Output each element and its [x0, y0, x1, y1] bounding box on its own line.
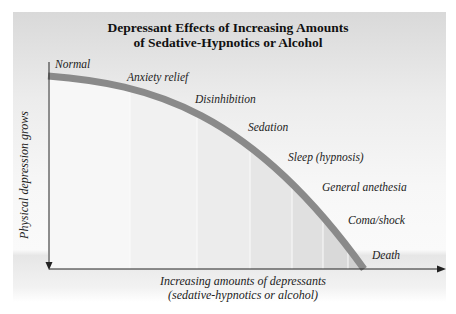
stage-label-anxiety-relief: Anxiety relief	[127, 71, 188, 83]
stage-label-sedation: Sedation	[248, 121, 288, 133]
stage-label-death: Death	[372, 249, 400, 261]
stage-label-sleep: Sleep (hypnosis)	[288, 151, 364, 163]
chart-graphic	[0, 0, 456, 314]
x-axis-label-line-1: Increasing amounts of depressants	[30, 274, 456, 288]
x-axis-label-line-2: (sedative-hypnotics or alcohol)	[30, 288, 456, 302]
stage-label-coma-shock: Coma/shock	[348, 214, 405, 226]
stage-label-normal: Normal	[55, 58, 90, 70]
x-axis-label: Increasing amounts of depressants (sedat…	[0, 274, 456, 302]
y-axis-label: Physical depression grows	[17, 111, 32, 239]
stage-label-general-anesthesia: General anethesia	[322, 181, 407, 193]
stage-bands	[48, 60, 368, 270]
x-axis-arrow-icon	[437, 266, 446, 273]
stage-label-disinhibition: Disinhibition	[195, 93, 256, 105]
